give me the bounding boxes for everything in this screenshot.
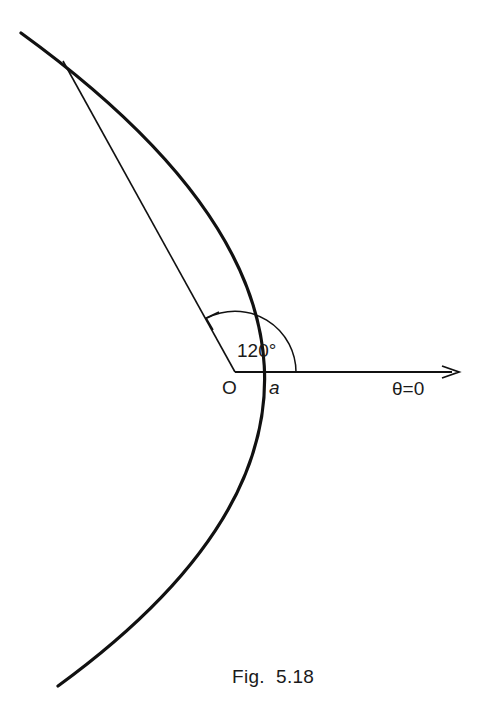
angle-label: 120° xyxy=(237,340,276,361)
parabola-diagram: 120° O a θ=0 xyxy=(0,0,490,723)
angle-arrowhead-icon xyxy=(206,312,219,330)
distance-label: a xyxy=(269,377,280,398)
origin-label: O xyxy=(222,377,237,398)
axis-label: θ=0 xyxy=(392,378,424,399)
figure-caption: Fig. 5.18 xyxy=(232,666,314,688)
